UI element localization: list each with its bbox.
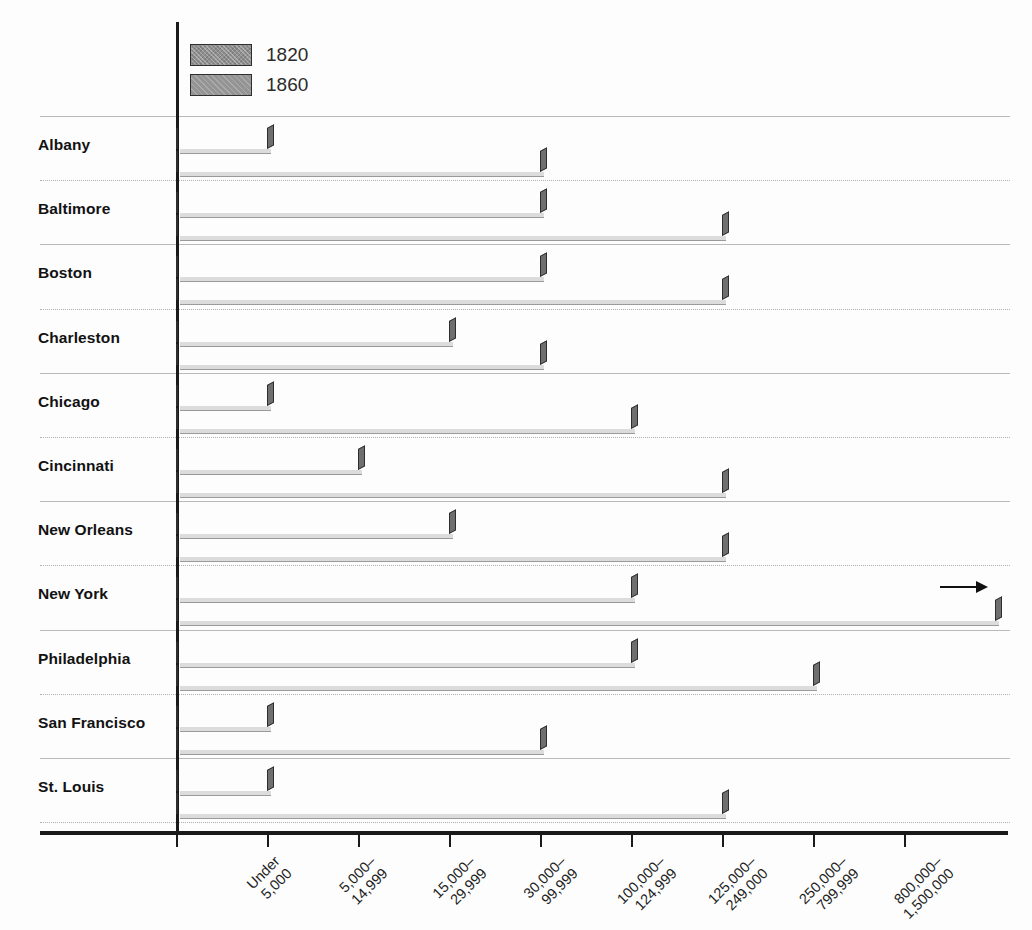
- category-label: Charleston: [38, 329, 120, 347]
- bar-1860: [176, 793, 722, 814]
- bar-1860: [176, 151, 540, 172]
- bar-fill: [176, 770, 178, 791]
- gridline: [40, 822, 1010, 823]
- bar-end-cap: [722, 789, 729, 814]
- bar-fill: [176, 642, 178, 663]
- category-label: Boston: [38, 264, 92, 282]
- x-axis-tick-label: 100,000– 124,999: [614, 853, 681, 920]
- x-axis-tick: [540, 833, 542, 847]
- arrow-head: [976, 581, 988, 593]
- bar-end-cap: [540, 340, 547, 365]
- bar-1820: [176, 128, 267, 149]
- bar-1860: [176, 665, 813, 686]
- legend-item-1820: 1820: [190, 40, 308, 70]
- category-label: Baltimore: [38, 200, 110, 218]
- gridline: [40, 309, 1010, 310]
- bar-fill: [176, 536, 178, 557]
- bar-fill: [176, 408, 178, 429]
- bar-shadow: [180, 686, 817, 691]
- plot-area: Under 5,0005,000– 14,99915,000– 29,99930…: [0, 0, 1032, 930]
- bar-fill: [176, 472, 178, 493]
- bar-fill: [176, 215, 178, 236]
- bar-shadow: [180, 300, 726, 305]
- bar-1820: [176, 770, 267, 791]
- bar-end-cap: [722, 276, 729, 301]
- bar-end-cap: [995, 597, 1002, 622]
- legend-label-1820: 1820: [266, 44, 308, 66]
- bar-shadow: [180, 493, 726, 498]
- x-axis-tick: [176, 833, 178, 847]
- bar-shadow: [180, 429, 635, 434]
- bar-fill: [176, 192, 178, 213]
- x-axis-tick: [358, 833, 360, 847]
- bar-end-cap: [449, 317, 456, 342]
- bar-1820: [176, 192, 540, 213]
- x-axis-tick: [813, 833, 815, 847]
- gridline: [40, 437, 1010, 438]
- bar-1860: [176, 729, 540, 750]
- bar-end-cap: [267, 766, 274, 791]
- bar-1860: [176, 344, 540, 365]
- bar-1820: [176, 321, 449, 342]
- bar-fill: [176, 665, 178, 686]
- x-axis-tick: [722, 833, 724, 847]
- category-label: St. Louis: [38, 778, 104, 796]
- bar-1820: [176, 642, 631, 663]
- bar-end-cap: [449, 509, 456, 534]
- arrow-shaft: [940, 586, 978, 588]
- bar-fill: [176, 151, 178, 172]
- x-axis-tick-label: Under 5,000: [244, 853, 296, 905]
- bar-fill: [176, 577, 178, 598]
- bar-fill: [176, 706, 178, 727]
- bar-shadow: [180, 365, 544, 370]
- bar-fill: [176, 513, 178, 534]
- bar-fill: [176, 128, 178, 149]
- gridline: [40, 694, 1010, 695]
- bar-end-cap: [722, 468, 729, 493]
- legend-swatch-1820: [190, 44, 252, 66]
- bar-shadow: [180, 236, 726, 241]
- category-label: Chicago: [38, 393, 100, 411]
- bar-end-cap: [722, 532, 729, 557]
- bar-fill: [176, 729, 178, 750]
- bar-end-cap: [540, 253, 547, 278]
- x-axis-tick-label: 15,000– 29,999: [430, 853, 491, 914]
- category-label: Cincinnati: [38, 457, 114, 475]
- gridline: [40, 244, 1010, 245]
- bar-1860: [176, 600, 995, 621]
- chart-legend: 1820 1860: [190, 40, 308, 100]
- gridline: [40, 116, 1010, 117]
- gridline: [40, 758, 1010, 759]
- bar-1860: [176, 279, 722, 300]
- x-axis-tick-label: 250,000– 799,999: [796, 853, 863, 920]
- bar-1860: [176, 408, 631, 429]
- bar-shadow: [180, 557, 726, 562]
- bar-end-cap: [631, 638, 638, 663]
- legend-label-1860: 1860: [266, 74, 308, 96]
- bar-fill: [176, 793, 178, 814]
- legend-swatch-1860: [190, 74, 252, 96]
- bar-fill: [176, 256, 178, 277]
- x-axis-tick-label: 30,000– 99,999: [521, 853, 582, 914]
- legend-item-1860: 1860: [190, 70, 308, 100]
- gridline: [40, 565, 1010, 566]
- gridline: [40, 630, 1010, 631]
- bar-shadow: [180, 172, 544, 177]
- bar-end-cap: [540, 725, 547, 750]
- bar-fill: [176, 321, 178, 342]
- category-label: New Orleans: [38, 521, 133, 539]
- bar-1820: [176, 513, 449, 534]
- bar-end-cap: [813, 661, 820, 686]
- bar-end-cap: [631, 404, 638, 429]
- bar-1820: [176, 449, 358, 470]
- category-label: Philadelphia: [38, 650, 131, 668]
- bar-fill: [176, 279, 178, 300]
- overflow-arrow-icon: [940, 579, 988, 595]
- bar-end-cap: [540, 188, 547, 213]
- x-axis-tick: [631, 833, 633, 847]
- bar-1860: [176, 472, 722, 493]
- bar-fill: [176, 344, 178, 365]
- bar-1820: [176, 256, 540, 277]
- category-label: Albany: [38, 136, 90, 154]
- bar-shadow: [180, 750, 544, 755]
